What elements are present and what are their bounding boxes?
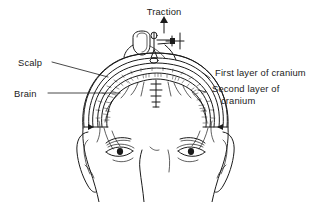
traction-pin [151, 50, 157, 58]
traction-clamp-right-jaw [165, 45, 176, 60]
first-layer-of-cranium-label: First layer of cranium [215, 67, 306, 78]
traction-bracket-inner [137, 33, 147, 52]
brain-label: Brain [14, 88, 37, 99]
right-eye-under-shadow [178, 158, 198, 162]
right-temple-crease [211, 121, 214, 142]
second-layer-leader-line [198, 90, 206, 92]
traction-pin-tip [150, 58, 158, 63]
traction-bracket-body [133, 31, 150, 55]
brain-surface-lines [104, 128, 208, 149]
left-eye-pupil [117, 148, 123, 155]
traction-label: Traction [147, 6, 182, 17]
traction-screw-knob [170, 38, 175, 44]
right-cut-arrow [217, 124, 223, 130]
scalp-label: Scalp [18, 57, 42, 68]
left-eye-under-shadow [113, 158, 133, 162]
ears-group [77, 132, 234, 192]
second-layer-of-cranium-label-line2: cranium [221, 95, 255, 106]
glabella-crease [150, 147, 159, 150]
second-layer-of-cranium-label-line1: Second layer of [212, 83, 280, 94]
nose-bridge-right [168, 150, 170, 172]
traction-clamp-brace [150, 46, 165, 58]
right-ear-lobe [217, 165, 226, 178]
medical-illustration-figure: Traction Scalp Brain First layer of cran… [0, 0, 328, 202]
eyes-group [106, 144, 205, 162]
leader-lines-group [48, 62, 210, 93]
traction-arm-lower [158, 43, 170, 44]
illustration-canvas: Traction Scalp Brain First layer of cran… [0, 0, 328, 202]
brain-region-group [104, 80, 208, 149]
scalp-leader-line [52, 62, 108, 77]
left-ear-lobe [85, 165, 94, 178]
nose-group [140, 147, 170, 202]
traction-device-group [124, 31, 184, 63]
traction-arrow-group [160, 16, 168, 33]
cut-edge-marks [84, 124, 227, 130]
first-layer-leader-line [203, 73, 210, 78]
nose-bridge-left [140, 150, 144, 202]
right-eye-pupil [188, 148, 194, 155]
traction-arrow-head [160, 16, 168, 23]
